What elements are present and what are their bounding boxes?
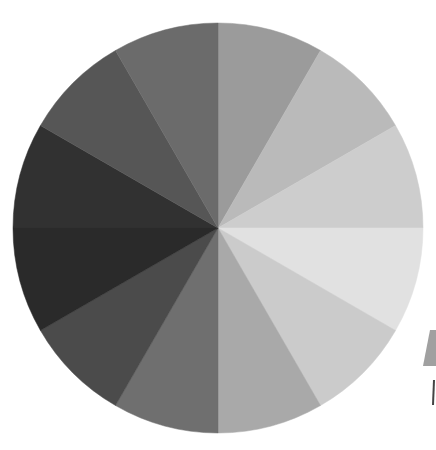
grayscale-pie-chart [0, 0, 436, 450]
pie-wedges [13, 23, 423, 433]
partial-shape-edge [420, 330, 436, 420]
